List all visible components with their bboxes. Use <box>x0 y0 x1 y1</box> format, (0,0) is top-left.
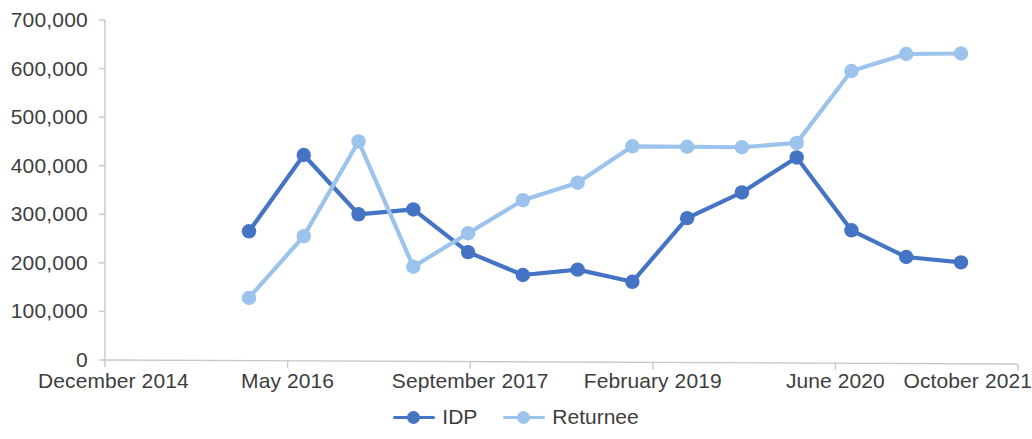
data-point-marker[interactable] <box>297 229 311 243</box>
data-point-marker[interactable] <box>680 140 694 154</box>
chart-legend: IDPReturnee <box>0 405 1032 429</box>
legend-label: Returnee <box>552 405 638 429</box>
data-point-marker[interactable] <box>735 185 749 199</box>
x-axis-tick-label: December 2014 <box>38 369 189 393</box>
legend-label: IDP <box>442 405 477 429</box>
x-axis-tick-label: June 2020 <box>786 369 885 393</box>
data-point-marker[interactable] <box>844 223 858 237</box>
data-point-marker[interactable] <box>625 275 639 289</box>
series-markers <box>242 46 968 305</box>
data-point-marker[interactable] <box>570 176 584 190</box>
x-axis-tick-label: October 2021 <box>904 369 1032 393</box>
data-point-marker[interactable] <box>735 140 749 154</box>
data-point-marker[interactable] <box>242 291 256 305</box>
legend-marker-icon <box>503 410 545 424</box>
legend-marker-icon <box>393 410 435 424</box>
data-point-marker[interactable] <box>242 224 256 238</box>
y-axis-ticks <box>99 20 105 360</box>
data-point-marker[interactable] <box>625 139 639 153</box>
data-point-marker[interactable] <box>570 262 584 276</box>
x-axis-tick-label: May 2016 <box>241 369 334 393</box>
data-point-marker[interactable] <box>406 260 420 274</box>
data-point-marker[interactable] <box>461 245 475 259</box>
data-point-marker[interactable] <box>351 134 365 148</box>
data-point-marker[interactable] <box>516 193 530 207</box>
data-point-marker[interactable] <box>789 136 803 150</box>
data-point-marker[interactable] <box>351 207 365 221</box>
series-lines <box>249 54 961 298</box>
data-point-marker[interactable] <box>516 268 530 282</box>
data-point-marker[interactable] <box>844 64 858 78</box>
data-point-marker[interactable] <box>899 47 913 61</box>
data-point-marker[interactable] <box>680 211 694 225</box>
data-point-marker[interactable] <box>954 255 968 269</box>
data-point-marker[interactable] <box>406 202 420 216</box>
data-point-marker[interactable] <box>789 150 803 164</box>
series-line-returnee <box>249 54 961 298</box>
x-axis-tick-label: September 2017 <box>392 369 549 393</box>
data-point-marker[interactable] <box>297 148 311 162</box>
data-point-marker[interactable] <box>899 250 913 264</box>
x-axis-tick-label: February 2019 <box>584 369 722 393</box>
data-point-marker[interactable] <box>954 46 968 60</box>
legend-item-returnee[interactable]: Returnee <box>503 405 638 429</box>
legend-item-idp[interactable]: IDP <box>393 405 477 429</box>
axis-lines <box>105 20 1018 364</box>
data-point-marker[interactable] <box>461 226 475 240</box>
x-axis-line <box>105 360 1018 364</box>
line-chart: 0100,000200,000300,000400,000500,000600,… <box>0 0 1032 439</box>
